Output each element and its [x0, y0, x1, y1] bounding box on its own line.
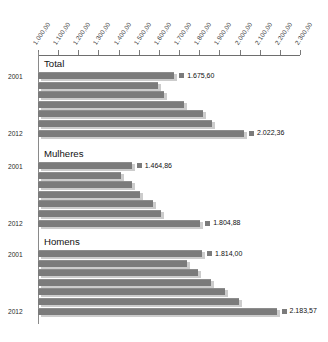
- bar: [38, 82, 158, 89]
- x-tick-mark: [219, 50, 220, 55]
- bar-item: [38, 191, 144, 198]
- bar-value-text: 1.804,88: [213, 219, 240, 226]
- bar-item: [38, 279, 215, 286]
- y-tick-label: 2001: [8, 73, 23, 80]
- bar: [38, 191, 140, 198]
- x-tick-mark: [119, 50, 120, 55]
- x-tick-label: 1.700,00: [172, 21, 192, 46]
- panel-title: Homens: [44, 236, 80, 247]
- x-tick-mark: [260, 50, 261, 55]
- x-tick-label: 1.500,00: [132, 21, 152, 46]
- bar: [38, 200, 153, 207]
- bar-item: [38, 200, 157, 207]
- x-tick-label: 1.400,00: [112, 21, 132, 46]
- bar: [38, 260, 187, 267]
- bar-item: [38, 172, 125, 179]
- bar-item: [38, 288, 229, 295]
- bar-item: [38, 181, 136, 188]
- bar-item: [38, 130, 248, 137]
- bar-value-label: 2.022,36: [249, 129, 284, 136]
- y-tick-label: 2001: [8, 163, 23, 170]
- x-tick-mark: [240, 50, 241, 55]
- bar: [38, 110, 203, 117]
- x-tick-mark: [58, 50, 59, 55]
- bar: [38, 72, 174, 79]
- bar-item: [38, 91, 168, 98]
- bar: [38, 308, 277, 315]
- panel-mulheres: Mulheres200120121.464,861.804,88: [0, 148, 328, 234]
- x-tick-mark: [280, 50, 281, 55]
- panel-title: Mulheres: [44, 148, 83, 159]
- x-axis: 1.000,001.100,001.200,001.300,001.400,00…: [0, 0, 328, 60]
- bar-value-label: 1.675,60: [179, 72, 214, 79]
- bar-chart: 1.000,001.100,001.200,001.300,001.400,00…: [0, 0, 328, 342]
- y-tick-label: 2012: [8, 220, 23, 227]
- bar-item: [38, 120, 216, 127]
- bar-swatch-icon: [137, 163, 142, 168]
- bar: [38, 130, 244, 137]
- bar-item: [38, 72, 178, 79]
- x-tick-label: 1.800,00: [192, 21, 212, 46]
- bar: [38, 279, 211, 286]
- bar-item: [38, 110, 207, 117]
- x-tick-label: 2.200,00: [273, 21, 293, 46]
- x-tick-mark: [179, 50, 180, 55]
- x-tick-label: 1.100,00: [51, 21, 71, 46]
- bar-swatch-icon: [282, 309, 287, 314]
- bar-item: [38, 269, 202, 276]
- bar-swatch-icon: [179, 73, 184, 78]
- bar-item: [38, 260, 191, 267]
- bar: [38, 181, 132, 188]
- y-tick-label: 2012: [8, 130, 23, 137]
- x-tick-label: 1.000,00: [31, 21, 51, 46]
- bar-value-label: 1.804,88: [205, 219, 240, 226]
- bar-value-label: 1.464,86: [137, 162, 172, 169]
- bar-value-text: 1.464,86: [145, 162, 172, 169]
- bar-value-text: 1.675,60: [187, 72, 214, 79]
- bar-swatch-icon: [249, 131, 254, 136]
- bar-swatch-icon: [207, 251, 212, 256]
- x-tick-mark: [98, 50, 99, 55]
- bar-value-text: 2.183,57: [290, 307, 317, 314]
- bar: [38, 120, 212, 127]
- bar: [38, 269, 198, 276]
- x-tick-label: 2.000,00: [233, 21, 253, 46]
- bar-item: [38, 298, 243, 305]
- x-tick-label: 1.200,00: [71, 21, 91, 46]
- y-tick-label: 2012: [8, 308, 23, 315]
- bar: [38, 101, 184, 108]
- x-tick-mark: [199, 50, 200, 55]
- x-axis-tick-labels: 1.000,001.100,001.200,001.300,001.400,00…: [0, 0, 328, 46]
- x-tick-label: 1.900,00: [213, 21, 233, 46]
- bar: [38, 172, 121, 179]
- x-tick-label: 2.100,00: [253, 21, 273, 46]
- panel-total: Total200120121.675,602.022,36: [0, 58, 328, 144]
- x-tick-label: 1.600,00: [152, 21, 172, 46]
- bar-value-text: 2.022,36: [257, 129, 284, 136]
- x-tick-label: 2.300,00: [293, 21, 313, 46]
- bar-value-label: 2.183,57: [282, 307, 317, 314]
- bar: [38, 288, 225, 295]
- bar: [38, 250, 202, 257]
- panel-title: Total: [44, 58, 64, 69]
- bar-item: [38, 101, 188, 108]
- bar-item: [38, 308, 281, 315]
- bar: [38, 220, 200, 227]
- bar-value-label: 1.814,00: [207, 250, 242, 257]
- x-tick-mark: [139, 50, 140, 55]
- x-tick-mark: [300, 50, 301, 55]
- bar: [38, 91, 164, 98]
- bar: [38, 210, 161, 217]
- bar: [38, 162, 132, 169]
- bar-item: [38, 220, 204, 227]
- bar-item: [38, 250, 206, 257]
- x-tick-label: 1.300,00: [92, 21, 112, 46]
- bar-item: [38, 82, 162, 89]
- bar: [38, 298, 239, 305]
- y-tick-label: 2001: [8, 251, 23, 258]
- bar-value-text: 1.814,00: [215, 250, 242, 257]
- x-tick-mark: [159, 50, 160, 55]
- bar-swatch-icon: [205, 221, 210, 226]
- bar-item: [38, 162, 136, 169]
- x-axis-line: [38, 55, 300, 56]
